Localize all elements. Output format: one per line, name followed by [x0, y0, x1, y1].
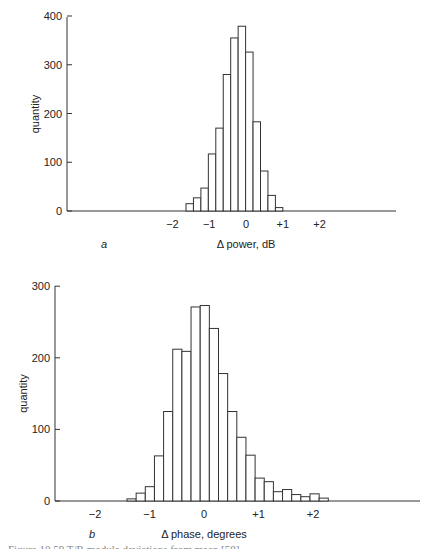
x-tick-label: 0	[201, 508, 207, 520]
histogram-bar	[216, 128, 223, 211]
histogram-bar	[268, 195, 275, 211]
y-axis-label: quantity	[29, 94, 41, 133]
histogram-bar	[301, 497, 310, 501]
x-tick-label: 0	[243, 218, 249, 230]
figure-canvas: 0100200300400−2−10+1+2quantityΔ power, d…	[0, 0, 428, 549]
x-tick-label: −1	[203, 218, 216, 230]
histogram-bar	[219, 374, 228, 501]
y-tick-label: 0	[44, 495, 50, 507]
x-tick-label: +1	[252, 508, 265, 520]
x-tick-label: +2	[307, 508, 320, 520]
histogram-bar	[273, 492, 282, 501]
histogram-bar	[275, 208, 282, 211]
histogram-bar	[231, 38, 238, 211]
histogram-bar	[200, 306, 209, 501]
y-tick-label: 200	[32, 352, 50, 364]
histogram-bar	[208, 154, 215, 211]
histogram-bar	[127, 499, 136, 501]
histogram-bar	[145, 487, 154, 501]
y-tick-label: 300	[44, 59, 62, 71]
panel-label: b	[89, 528, 95, 540]
histogram-bar	[253, 122, 260, 211]
histogram-bar	[264, 482, 273, 501]
histogram-bar	[283, 490, 292, 501]
histogram-bar	[209, 328, 218, 501]
histogram-bar	[261, 171, 268, 211]
figure-caption: Figure 10.59 T/R module deviations from …	[8, 542, 239, 549]
x-axis-label: Δ phase, degrees	[161, 528, 247, 540]
histogram-bar	[154, 456, 163, 501]
histogram-bar	[246, 455, 255, 501]
y-tick-label: 0	[56, 205, 62, 217]
y-tick-label: 400	[44, 10, 62, 22]
x-tick-label: −2	[166, 218, 179, 230]
x-tick-label: −2	[89, 508, 102, 520]
x-axis-label: Δ power, dB	[217, 238, 276, 250]
histogram-bar	[228, 412, 237, 502]
histogram-power: 0100200300400−2−10+1+2quantityΔ power, d…	[29, 10, 396, 250]
histogram-bar	[319, 498, 328, 501]
histogram-bar	[237, 437, 246, 501]
histogram-bar	[182, 351, 191, 501]
histogram-bar	[193, 198, 200, 211]
x-tick-label: +2	[313, 218, 326, 230]
y-axis-label: quantity	[17, 374, 29, 413]
histogram-bar	[164, 412, 173, 502]
y-tick-label: 200	[44, 108, 62, 120]
histogram-bar	[173, 349, 182, 501]
histogram-bar	[186, 204, 193, 211]
histogram-bar	[238, 26, 245, 211]
histogram-bar	[191, 307, 200, 501]
y-tick-label: 100	[32, 423, 50, 435]
histogram-bar	[310, 494, 319, 501]
x-tick-label: +1	[277, 218, 290, 230]
x-tick-label: −1	[143, 508, 156, 520]
y-tick-label: 100	[44, 156, 62, 168]
y-tick-label: 300	[32, 280, 50, 292]
histogram-phase: 0100200300−2−10+1+2quantityΔ phase, degr…	[17, 280, 420, 540]
histogram-bar	[255, 478, 264, 501]
panel-label: a	[101, 238, 107, 250]
histogram-bar	[223, 75, 230, 212]
histogram-bar	[136, 493, 145, 501]
histogram-bar	[292, 495, 301, 501]
histogram-bar	[246, 52, 253, 211]
histogram-bar	[201, 188, 208, 211]
